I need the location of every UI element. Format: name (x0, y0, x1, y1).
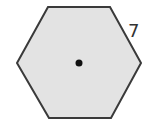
side-length-label: 7 (128, 20, 139, 41)
center-point (76, 60, 83, 67)
hexagon-diagram: 7 (0, 0, 150, 130)
